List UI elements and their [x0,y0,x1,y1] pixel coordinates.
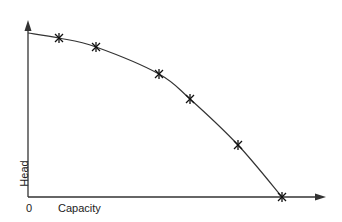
origin-label: 0 [26,203,32,214]
curve-path [28,33,282,197]
x-axis-label: Capacity [58,203,101,214]
asterisk-marker-icon [186,94,194,104]
axes [25,20,327,201]
y-axis-arrow-icon [25,20,32,31]
x-axis-arrow-icon [315,194,326,201]
y-axis-label: Head [19,160,30,186]
asterisk-marker-icon [234,140,242,150]
head-capacity-curve [28,33,282,197]
asterisk-marker-icon [92,42,100,52]
head-capacity-chart [0,0,342,222]
asterisk-marker-icon [155,69,163,79]
data-markers [55,33,286,202]
